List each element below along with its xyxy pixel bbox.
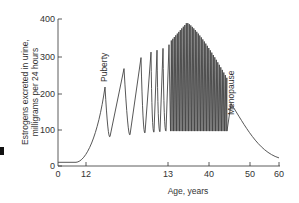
puberty-annotation: Puberty	[99, 52, 109, 82]
x-ticks	[86, 162, 279, 166]
x-tick-12: 12	[81, 169, 91, 179]
x-tick-60: 60	[274, 169, 284, 179]
svg-text:Puberty: Puberty	[99, 52, 109, 82]
y-axis-title: Estrogens excreted in urine, milligrams …	[20, 39, 40, 145]
y-tick-labels: 400 300 200 100 0	[40, 14, 55, 171]
y-tick-0: 0	[50, 161, 55, 171]
y-tick-100: 100	[40, 125, 55, 135]
x-tick-labels: 0 12 13 40 50 60	[55, 169, 284, 179]
x-tick-13: 13	[163, 169, 173, 179]
x-axis-title: Age, years	[168, 186, 209, 196]
estrogen-chart: 400 300 200 100 0 0 12 13 40 50 60 Age, …	[0, 0, 299, 203]
y-tick-400: 400	[40, 14, 55, 24]
estrogen-series-line	[58, 23, 279, 162]
svg-text:Menopause: Menopause	[226, 70, 236, 115]
y-tick-200: 200	[40, 89, 55, 99]
x-tick-50: 50	[245, 169, 255, 179]
y-axis-title-line2: milligrams per 24 hours	[30, 48, 40, 136]
menopause-annotation: Menopause	[226, 70, 236, 115]
x-tick-0: 0	[55, 169, 60, 179]
x-tick-40: 40	[204, 169, 214, 179]
y-tick-300: 300	[40, 52, 55, 62]
y-ticks	[58, 19, 62, 166]
y-axis-title-line1: Estrogens excreted in urine,	[20, 39, 30, 145]
